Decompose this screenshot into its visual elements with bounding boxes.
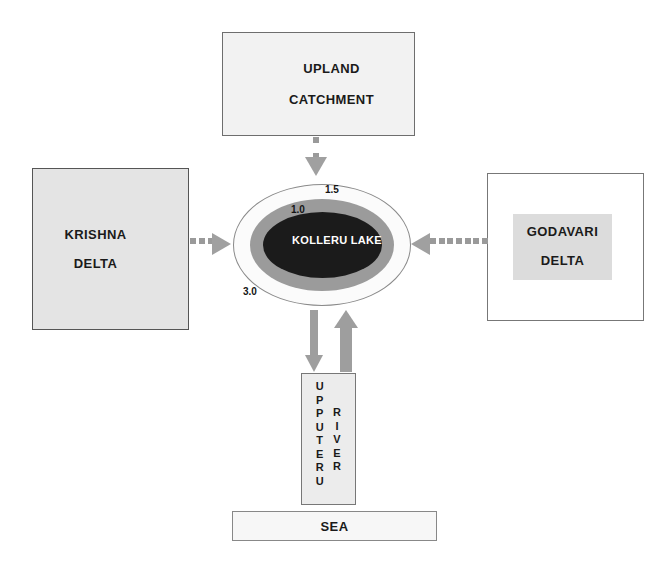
connector-dot xyxy=(190,238,196,244)
godavari-delta-label-line2: DELTA xyxy=(541,253,584,268)
node-godavari-delta[interactable]: GODAVARI DELTA xyxy=(487,173,644,321)
kolleru-lake-label-line1: KOLLERU xyxy=(292,234,347,246)
godavari-delta-label-line1: GODAVARI xyxy=(527,224,598,239)
node-sea[interactable]: SEA xyxy=(232,511,437,541)
connector-lake-to-river xyxy=(305,310,323,372)
connector-dot xyxy=(430,238,436,244)
connector-dot xyxy=(456,238,462,244)
krishna-delta-label-line1: KRISHNA xyxy=(64,227,126,242)
connector-dot xyxy=(473,238,479,244)
connector-krishna-to-lake-arrowhead xyxy=(212,233,231,255)
connector-shaft xyxy=(310,310,318,357)
connector-krishna-to-lake-dots xyxy=(190,238,214,244)
node-upland-catchment[interactable]: UPLAND CATCHMENT xyxy=(222,32,415,136)
krishna-delta-label-line2: DELTA xyxy=(74,256,117,271)
connector-river-to-lake xyxy=(334,310,358,372)
node-krishna-delta[interactable]: KRISHNA DELTA xyxy=(32,168,189,330)
connector-upland-to-lake-arrowhead xyxy=(305,157,327,176)
upputeru-river-label-column2: RIVER xyxy=(333,406,341,474)
upland-catchment-label-line1: UPLAND xyxy=(303,61,360,76)
godavari-delta-highlight: GODAVARI DELTA xyxy=(513,214,612,280)
lake-depth-contour-1-5: 1.5 xyxy=(325,184,339,195)
connector-dot xyxy=(447,238,453,244)
node-upputeru-river[interactable]: UPPUTERU RIVER xyxy=(301,373,356,505)
connector-arrowhead xyxy=(305,355,323,372)
connector-shaft xyxy=(340,326,352,372)
node-kolleru-lake-label: KOLLERU LAKE xyxy=(285,232,389,249)
lake-depth-contour-3-0: 3.0 xyxy=(243,286,257,297)
diagram-canvas: UPLAND CATCHMENT KRISHNA DELTA GODAVARI … xyxy=(0,0,670,565)
connector-dot xyxy=(199,238,205,244)
connector-dot xyxy=(439,238,445,244)
upland-catchment-label-line2: CATCHMENT xyxy=(289,92,374,107)
connector-dot xyxy=(482,238,488,244)
lake-depth-contour-1-0: 1.0 xyxy=(291,204,305,215)
upputeru-river-label-column1: UPPUTERU xyxy=(316,380,324,488)
connector-dot xyxy=(313,137,319,143)
connector-dot xyxy=(465,238,471,244)
sea-label: SEA xyxy=(321,519,349,534)
connector-godavari-to-lake-arrowhead xyxy=(411,233,430,255)
connector-upland-to-lake-dots xyxy=(313,137,319,159)
connector-godavari-to-lake-dots xyxy=(430,238,488,244)
connector-river-to-sea xyxy=(313,504,343,512)
kolleru-lake-label-line2: LAKE xyxy=(351,234,382,246)
